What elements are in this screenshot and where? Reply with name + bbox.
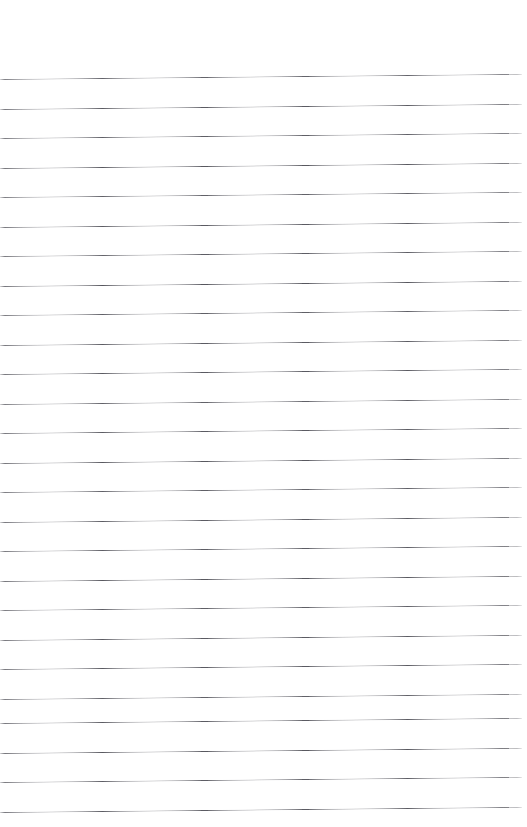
ruled-line [0,428,522,434]
ruled-line [0,517,522,523]
ruled-line [0,104,522,110]
ruled-line [0,192,522,198]
ruled-line [0,222,522,228]
ruled-line [0,807,522,813]
ruled-line [0,605,522,611]
scanned-page [0,0,527,827]
ruled-line [0,718,522,724]
ruled-line [0,635,522,641]
ruled-line [0,251,522,257]
ruled-line [0,694,522,700]
ruled-line [0,487,522,493]
ruled-line [0,340,522,346]
ruled-line [0,133,522,139]
ruled-line-layer [0,0,527,827]
ruled-line [0,369,522,375]
ruled-line [0,458,522,464]
ruled-line [0,281,522,287]
ruled-line [0,576,522,582]
ruled-line [0,163,522,169]
ruled-line [0,664,522,670]
ruled-line [0,74,522,80]
ruled-line [0,777,522,783]
ruled-line [0,546,522,552]
ruled-line [0,748,522,754]
ruled-line [0,310,522,316]
ruled-line [0,399,522,405]
